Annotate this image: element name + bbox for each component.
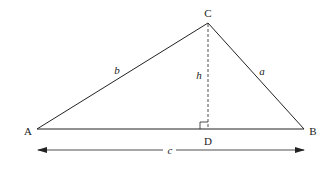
side-a (208, 23, 304, 129)
side-label-a: a (259, 65, 265, 77)
triangle-diagram: A B C D b a h c (0, 0, 324, 169)
vertex-label-b: B (309, 125, 316, 137)
side-label-h: h (196, 69, 202, 81)
side-label-c: c (168, 144, 173, 156)
vertex-label-d: D (204, 135, 212, 147)
side-b (37, 23, 208, 129)
side-label-b: b (114, 64, 120, 76)
right-angle-mark (200, 122, 208, 129)
vertex-label-c: C (204, 7, 211, 19)
vertex-label-a: A (24, 125, 32, 137)
